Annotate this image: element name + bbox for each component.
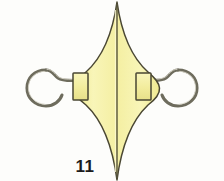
artifact-illustration [0, 0, 224, 181]
left-hook-shank-highlight [47, 69, 73, 79]
right-block [136, 73, 151, 100]
left-block [73, 73, 88, 100]
figure-number-label: 11 [68, 157, 102, 177]
figure-plate: 11 [0, 0, 224, 181]
left-hook-group [27, 69, 73, 106]
